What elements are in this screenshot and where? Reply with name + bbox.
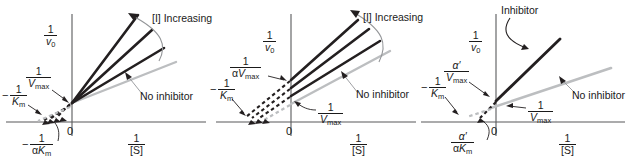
y-axis-label: 1 v0 xyxy=(469,30,482,53)
km-den-k: K xyxy=(12,95,19,107)
km-denominator: Km xyxy=(429,87,446,99)
km-numerator: 1 xyxy=(218,78,235,89)
alpha-prime-vmax-denominator: Vmax xyxy=(444,71,469,83)
label-no-inhibitor: No inhibitor xyxy=(140,91,193,102)
vmax-den-sub: max xyxy=(35,82,49,91)
lineweaver-burk-figure: 1 v0 1 Vmax − 1 Km − 1 αKm 0 [I] Increas… xyxy=(0,0,629,167)
aakm-alpha-prime: α′ xyxy=(459,130,467,142)
alpha-prime-vmax-den-v: V xyxy=(446,71,453,83)
vmax-den-v: V xyxy=(28,77,35,89)
alpha-prime-numerator: α′ xyxy=(444,60,469,71)
label-inhibitor-increasing: [I] Increasing xyxy=(152,13,212,24)
label-minus-one-over-km: − 1 Km xyxy=(210,78,235,101)
akm-denominator: αKm xyxy=(30,144,53,156)
label-one-over-vmax: 1 Vmax xyxy=(26,66,51,89)
x-axis-label-denominator: [S] xyxy=(559,144,576,156)
km-minus-sign: − xyxy=(421,82,427,94)
y-axis-label-numerator: 1 xyxy=(44,24,57,35)
y-axis-label: 1 v0 xyxy=(44,24,57,47)
vmax-denominator: Vmax xyxy=(318,113,343,125)
vmax-den-v: V xyxy=(530,111,537,123)
vmax-den-v: V xyxy=(320,113,327,125)
vmax-numerator: 1 xyxy=(318,102,343,113)
label-alpha-prime-over-vmax: α′ Vmax xyxy=(444,60,469,83)
alpha-vmax-numerator: 1 xyxy=(230,56,261,67)
label-minus-one-over-alpha-km: − 1 αKm xyxy=(22,133,53,156)
label-no-inhibitor: No inhibitor xyxy=(572,90,625,101)
y-axis-label: 1 v0 xyxy=(263,30,276,53)
label-minus-one-over-km: − 1 Km xyxy=(421,76,446,99)
label-inhibitor: Inhibitor xyxy=(501,5,538,16)
vmax-den-sub: max xyxy=(327,118,341,127)
x-axis-label-denominator: [S] xyxy=(128,144,145,156)
x-axis-label: 1 [S] xyxy=(350,133,367,156)
label-one-over-vmax: 1 Vmax xyxy=(528,100,553,123)
leader-vmax-arrowhead xyxy=(294,101,301,107)
y-axis-label-denominator: v0 xyxy=(44,35,57,47)
leader-alpha-prime-vmax-arrowhead xyxy=(483,91,490,97)
label-one-over-alpha-vmax: 1 αVmax xyxy=(230,56,261,79)
vmax-numerator: 1 xyxy=(26,66,51,77)
series-inhibitor-medium xyxy=(291,29,369,88)
label-alpha-prime-over-alpha-km: α′ αKm xyxy=(451,131,474,154)
dashed-extension-no-inhibitor xyxy=(467,109,491,117)
panel-uncompetitive-inhibition: 1 v0 1 αVmax − 1 Km 1 Vmax 0 [I] Increas… xyxy=(210,0,420,167)
leader-alpha-prime-alpha-km xyxy=(484,122,489,140)
leader-akm xyxy=(55,123,59,141)
y-axis-label-denominator: v0 xyxy=(469,41,482,53)
label-minus-one-over-km: − 1 Km xyxy=(2,84,27,107)
akm-numerator: 1 xyxy=(30,133,53,144)
series-inhibitor-high xyxy=(291,20,358,80)
vmax-numerator: 1 xyxy=(528,100,553,111)
km-minus-sign: − xyxy=(2,90,8,102)
leader-km-arrowhead xyxy=(452,109,459,115)
y-axis-label-denominator: v0 xyxy=(263,41,276,53)
aakm-denominator: αKm xyxy=(451,142,474,154)
km-denominator: Km xyxy=(218,89,235,101)
origin-label: 0 xyxy=(67,126,73,137)
x-axis-label: 1 [S] xyxy=(128,133,145,156)
km-den-sub: m xyxy=(438,92,444,101)
x-axis-label-denominator: [S] xyxy=(350,144,367,156)
y-axis-label-numerator: 1 xyxy=(263,30,276,41)
km-den-k: K xyxy=(220,89,227,101)
km-denominator: Km xyxy=(10,95,27,107)
dashed-extension-2 xyxy=(252,89,290,118)
aakm-numerator: α′ xyxy=(451,131,474,142)
y-axis-label-den-sub: 0 xyxy=(51,40,55,49)
panel-mixed-inhibition: 1 v0 α′ Vmax − 1 Km 1 Vmax α′ αKm 0 Inhi… xyxy=(419,0,629,167)
km-minus-sign: − xyxy=(210,84,216,96)
label-inhibitor-increasing: [I] Increasing xyxy=(363,12,423,23)
x-axis-label-numerator: 1 xyxy=(128,133,145,144)
akm-minus-sign: − xyxy=(22,139,28,151)
alpha-prime-symbol: α′ xyxy=(453,59,461,71)
origin-label: 0 xyxy=(286,126,292,137)
vmax-den-sub: max xyxy=(537,116,551,125)
y-axis-label-den-sub: 0 xyxy=(270,46,274,55)
y-axis-label-numerator: 1 xyxy=(469,30,482,41)
aakm-den-sub: m xyxy=(466,147,472,156)
km-den-sub: m xyxy=(227,94,233,103)
y-axis-label-den-sub: 0 xyxy=(476,46,480,55)
origin-label: 0 xyxy=(491,126,497,137)
vmax-denominator: Vmax xyxy=(528,111,553,123)
alpha-prime-vmax-den-sub: max xyxy=(453,76,467,85)
increasing-arrow-head xyxy=(350,10,360,18)
panel-competitive-inhibition: 1 v0 1 Vmax − 1 Km − 1 αKm 0 [I] Increas… xyxy=(0,0,210,167)
km-den-k: K xyxy=(431,87,438,99)
x-axis-label-numerator: 1 xyxy=(350,133,367,144)
alpha-vmax-den-sub: max xyxy=(245,72,259,81)
label-one-over-vmax: 1 Vmax xyxy=(318,102,343,125)
plot-uncompetitive xyxy=(210,0,420,167)
leader-vmax-arrowhead xyxy=(62,96,69,103)
label-no-inhibitor: No inhibitor xyxy=(356,89,409,100)
km-numerator: 1 xyxy=(429,76,446,87)
x-axis-label: 1 [S] xyxy=(559,133,576,156)
vmax-denominator: Vmax xyxy=(26,77,51,89)
x-intercept-marker-3 xyxy=(59,117,67,122)
x-axis-label-numerator: 1 xyxy=(559,133,576,144)
km-den-sub: m xyxy=(19,100,25,109)
leader-km-arrowhead xyxy=(239,110,246,116)
akm-den-sub: m xyxy=(45,149,51,158)
inhibitor-arrow-curve xyxy=(506,18,526,48)
